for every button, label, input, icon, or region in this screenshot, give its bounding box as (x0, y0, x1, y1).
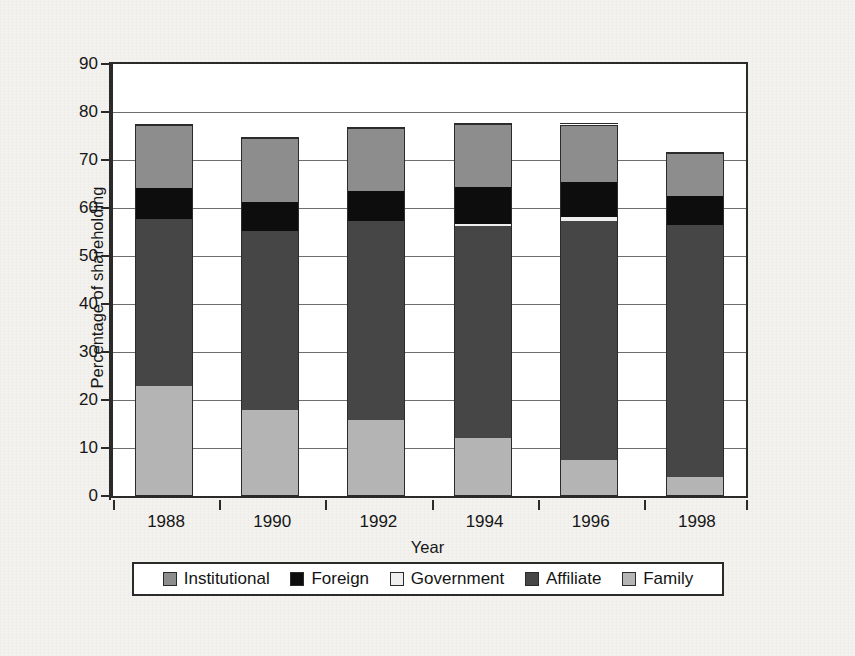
bar-segment-1992-affiliate[interactable] (347, 221, 405, 420)
y-tick-mark-70 (101, 159, 110, 161)
y-axis-title: Percentage of shareholding (88, 123, 107, 453)
legend-label: Affiliate (546, 569, 601, 589)
gridline-10 (113, 448, 746, 449)
x-tick-label-1990: 1990 (227, 512, 317, 532)
bar-segment-1996-family[interactable] (560, 460, 618, 496)
y-tick-mark-10 (101, 447, 110, 449)
bar-top-edge-1992 (347, 127, 405, 128)
x-tick-mark-3 (432, 500, 434, 510)
plot-area (111, 62, 748, 498)
gridline-50 (113, 256, 746, 257)
bar-1988[interactable] (135, 64, 193, 496)
legend-swatch-family (622, 572, 636, 586)
bar-segment-1992-institutional[interactable] (347, 128, 405, 190)
legend-swatch-government (390, 572, 404, 586)
gridline-70 (113, 160, 746, 161)
bar-segment-1994-family[interactable] (454, 438, 512, 496)
y-tick-mark-60 (101, 207, 110, 209)
legend-item-foreign[interactable]: Foreign (290, 569, 369, 589)
bar-segment-1994-government[interactable] (454, 224, 512, 226)
x-axis-title: Year (0, 538, 855, 557)
bar-segment-1988-affiliate[interactable] (135, 219, 193, 386)
x-tick-label-1996: 1996 (546, 512, 636, 532)
y-tick-label-0: 0 (64, 487, 98, 504)
x-tick-label-1992: 1992 (333, 512, 423, 532)
x-tick-label-1988: 1988 (121, 512, 211, 532)
legend-item-institutional[interactable]: Institutional (163, 569, 270, 589)
bar-segment-1998-affiliate[interactable] (666, 225, 724, 477)
y-tick-mark-50 (101, 255, 110, 257)
legend-item-family[interactable]: Family (622, 569, 693, 589)
bar-1994[interactable] (454, 64, 512, 496)
x-tick-mark-4 (538, 500, 540, 510)
gridline-80 (113, 112, 746, 113)
legend-swatch-foreign (290, 572, 304, 586)
chart-legend: InstitutionalForeignGovernmentAffiliateF… (132, 562, 724, 596)
bar-top-edge-1994 (454, 123, 512, 124)
x-tick-mark-5 (644, 500, 646, 510)
bar-top-edge-1988 (135, 124, 193, 125)
legend-label: Institutional (184, 569, 270, 589)
legend-label: Family (643, 569, 693, 589)
x-tick-label-1994: 1994 (440, 512, 530, 532)
chart-figure: 9080706050403020100 Percentage of shareh… (0, 0, 855, 656)
bar-1990[interactable] (241, 64, 299, 496)
bar-segment-1990-institutional[interactable] (241, 138, 299, 202)
bar-segment-1992-foreign[interactable] (347, 191, 405, 222)
bar-segment-1988-family[interactable] (135, 386, 193, 496)
bar-1992[interactable] (347, 64, 405, 496)
bar-top-edge-1998 (666, 152, 724, 153)
legend-item-government[interactable]: Government (390, 569, 505, 589)
bar-segment-1998-foreign[interactable] (666, 196, 724, 225)
bar-1998[interactable] (666, 64, 724, 496)
bar-segment-1990-family[interactable] (241, 410, 299, 496)
gridline-60 (113, 208, 746, 209)
bar-segment-1988-institutional[interactable] (135, 125, 193, 187)
y-tick-label-90: 90 (64, 55, 98, 72)
legend-swatch-affiliate (525, 572, 539, 586)
y-tick-mark-0 (101, 495, 110, 497)
bar-segment-1996-institutional[interactable] (560, 125, 618, 182)
legend-swatch-institutional (163, 572, 177, 586)
bar-segment-1994-institutional[interactable] (454, 124, 512, 188)
x-tick-mark-0 (113, 500, 115, 510)
bar-segment-1994-foreign[interactable] (454, 187, 512, 223)
legend-label: Foreign (311, 569, 369, 589)
bar-segment-1992-family[interactable] (347, 420, 405, 496)
bar-segment-1998-family[interactable] (666, 477, 724, 496)
bar-segment-1996-government[interactable] (560, 217, 618, 221)
bar-segment-1996-affiliate[interactable] (560, 221, 618, 460)
y-tick-mark-40 (101, 303, 110, 305)
bar-segment-1996-foreign[interactable] (560, 182, 618, 218)
y-tick-mark-20 (101, 399, 110, 401)
bar-segment-1994-affiliate[interactable] (454, 226, 512, 438)
bar-segment-1990-foreign[interactable] (241, 202, 299, 231)
y-tick-mark-80 (101, 111, 110, 113)
legend-item-affiliate[interactable]: Affiliate (525, 569, 601, 589)
bar-segment-1990-affiliate[interactable] (241, 231, 299, 410)
bar-segment-1988-foreign[interactable] (135, 188, 193, 219)
bar-top-edge-1990 (241, 137, 299, 138)
y-tick-mark-90 (101, 63, 110, 65)
bar-top-edge-1996 (560, 123, 618, 124)
y-tick-mark-30 (101, 351, 110, 353)
bar-segment-1998-institutional[interactable] (666, 153, 724, 196)
gridline-40 (113, 304, 746, 305)
bar-1996[interactable] (560, 64, 618, 496)
y-tick-label-80: 80 (64, 103, 98, 120)
legend-label: Government (411, 569, 505, 589)
x-tick-mark-2 (325, 500, 327, 510)
gridline-20 (113, 400, 746, 401)
gridline-30 (113, 352, 746, 353)
x-tick-mark-end (746, 500, 748, 510)
x-tick-label-1998: 1998 (652, 512, 742, 532)
x-tick-mark-1 (219, 500, 221, 510)
